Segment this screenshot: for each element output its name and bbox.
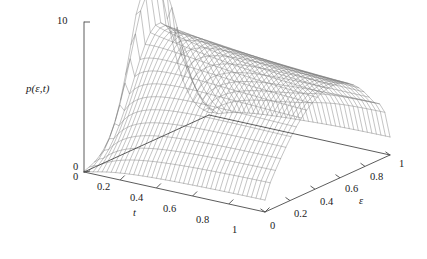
eps-tick-label-1: 1	[399, 158, 404, 169]
eps-tick-label-0.8: 0.8	[370, 171, 383, 182]
eps-tick-label-0.2: 0.2	[294, 208, 307, 219]
t-tick-3	[229, 200, 234, 205]
mesh-line	[167, 7, 348, 83]
mesh-line	[173, 27, 354, 85]
t-tick-1	[156, 184, 161, 189]
eps-tick-label-0: 0	[270, 220, 275, 231]
eps-tick-1	[286, 197, 291, 200]
mesh-line	[115, 97, 296, 127]
plot-canvas	[0, 0, 427, 259]
mesh-line	[84, 171, 265, 200]
t-tick-0	[120, 176, 125, 181]
epsilon-axis-label: ε	[359, 195, 363, 206]
t-tick-label-0.6: 0.6	[163, 203, 176, 214]
mesh-line	[157, 0, 338, 84]
eps-tick-label-0.4: 0.4	[320, 196, 333, 207]
t-tick-label-0.8: 0.8	[196, 214, 209, 225]
t-axis-label: t	[133, 207, 136, 218]
t-tick-label-0: 0	[73, 171, 78, 182]
z-axis-label: p(ε,t)	[26, 82, 50, 94]
t-tick-2	[193, 192, 198, 197]
mesh-line	[147, 0, 328, 88]
z-tick-label-10: 10	[57, 15, 68, 26]
eps-tick-2	[311, 186, 316, 189]
t-tick-label-0.2: 0.2	[97, 181, 110, 192]
t-tick-label-0.4: 0.4	[130, 192, 143, 203]
surface-plot-figure: p(ε,t) 10 0 0 0.2 0.4 0.6 0.8 1 t 0 0.2 …	[0, 0, 427, 259]
eps-tick-3	[336, 175, 341, 178]
eps-tick-label-0.6: 0.6	[345, 183, 358, 194]
eps-tick-4	[361, 163, 366, 166]
t-tick-label-1: 1	[232, 224, 237, 235]
mesh-line	[209, 112, 390, 136]
